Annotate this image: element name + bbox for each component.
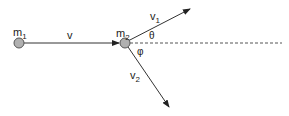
collision-diagram: m1 v m2 v1 θ φ v2 — [0, 0, 289, 116]
phi-label: φ — [137, 47, 143, 57]
m1-label: m1 — [13, 27, 27, 41]
m2-label: m2 — [116, 28, 130, 42]
v-label: v — [67, 30, 73, 41]
theta-label: θ — [149, 31, 155, 41]
diagram-graphics — [0, 0, 289, 116]
v1-label: v1 — [150, 11, 160, 25]
v2-label: v2 — [130, 70, 140, 84]
